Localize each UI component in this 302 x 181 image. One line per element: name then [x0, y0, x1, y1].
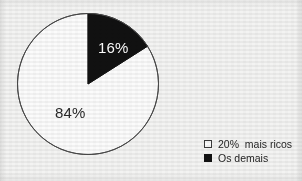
- slice-label-os-demais: 16%: [98, 39, 129, 56]
- chart-legend: 20% mais ricos Os demais: [204, 137, 292, 165]
- legend-label: 20% mais ricos: [218, 138, 292, 150]
- legend-label: Os demais: [218, 152, 268, 164]
- legend-item-20-mais-ricos[interactable]: 20% mais ricos: [204, 137, 292, 150]
- legend-swatch-icon-hollow: [204, 140, 212, 148]
- legend-swatch-icon-filled: [204, 154, 212, 162]
- slice-label-20-mais-ricos: 84%: [55, 104, 86, 121]
- chart-canvas: 16% 84% 20% mais ricos Os demais: [0, 0, 302, 181]
- legend-item-os-demais[interactable]: Os demais: [204, 151, 292, 164]
